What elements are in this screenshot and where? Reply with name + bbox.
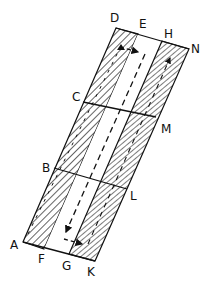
strip-diagram: D E H N C M B L A F G K: [0, 0, 212, 284]
label-f: F: [38, 252, 45, 266]
label-e: E: [139, 17, 147, 31]
label-g: G: [62, 259, 71, 273]
label-h: H: [164, 27, 173, 41]
label-l: L: [130, 189, 137, 203]
label-n: N: [191, 42, 200, 56]
label-m: M: [161, 122, 171, 136]
label-a: A: [10, 238, 19, 252]
label-k: K: [87, 265, 96, 279]
label-d: D: [110, 11, 119, 25]
label-b: B: [42, 161, 50, 175]
label-c: C: [72, 90, 80, 104]
